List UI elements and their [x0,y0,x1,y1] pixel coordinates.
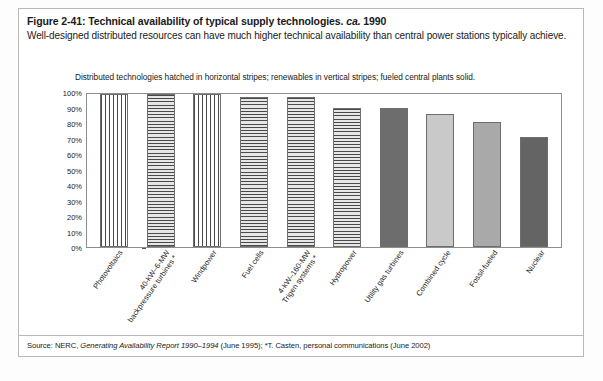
bar-slot [470,94,504,247]
y-axis-tick-label: 30% [67,197,82,206]
bar-slot [330,94,364,247]
y-axis-tick-label: 20% [67,213,82,222]
x-axis-label: Windpower [190,249,219,285]
x-axis-labels: Photovoltaics40-kW–6-MWbackpressure turb… [86,249,562,329]
bar[interactable] [380,108,408,248]
figure-title: Figure 2-41: Technical availability of t… [27,15,575,27]
chart-legend-note: Distributed technologies hatched in hori… [75,72,575,82]
source-prefix: Source: NERC, [27,341,80,350]
source-box: Source: NERC, Generating Availability Re… [18,335,584,357]
bar[interactable] [426,114,454,247]
x-axis-label: Hydropower [329,249,360,287]
bar[interactable] [100,94,128,247]
y-axis-tick-label: 0% [71,244,82,253]
x-axis-label: 4-kW–160-MWTrigen systems * [273,249,319,305]
bar-slot [423,94,457,247]
plot-area [86,93,562,248]
figure-title-ca: ca. [346,15,360,27]
x-axis-label-line: Fuel cells [240,249,265,280]
x-axis-label-line: Hydropower [329,249,360,287]
y-axis-tick-label: 90% [67,104,82,113]
source-text: Source: NERC, Generating Availability Re… [27,341,575,350]
x-axis-label-line: 40-kW–6-MW [119,249,172,319]
source-title: Generating Availability Report 1990–1994 [80,341,218,350]
x-axis-label: Fuel cells [240,249,265,280]
x-axis-label: 40-kW–6-MWbackpressure turbines * [119,249,179,324]
bar[interactable] [333,108,361,248]
x-axis-label-line: Combined cycle [415,249,453,298]
bar-series [87,94,561,247]
figure-subtitle: Well-designed distributed resources can … [27,30,575,43]
x-axis-label: Photovoltaics [92,249,125,291]
x-axis-label: Nuclear [525,249,547,275]
x-axis-label: Fossil-fueled [468,249,500,289]
bar-slot [517,94,551,247]
figure-title-main: Figure 2-41: Technical availability of t… [27,15,343,27]
bar-slot [284,94,318,247]
bar[interactable] [193,94,221,247]
y-axis-tick-label: 80% [67,120,82,129]
bar[interactable] [287,97,315,247]
bar-slot [237,94,271,247]
x-axis-label: Combined cycle [415,249,453,298]
bar-slot [144,94,178,247]
bar-slot [97,94,131,247]
y-axis-tick-label: 100% [63,89,82,98]
figure-page: Figure 2-41: Technical availability of t… [0,0,603,381]
x-axis-label: Utility gas turbines [364,249,407,305]
y-axis-tick-label: 60% [67,151,82,160]
bar[interactable] [473,122,501,247]
y-axis-tick-label: 10% [67,228,82,237]
figure-title-year: 1990 [363,15,386,27]
source-suffix: (June 1995); *T. Casten, personal commun… [219,341,431,350]
figure-caption-box: Figure 2-41: Technical availability of t… [18,8,584,60]
bar-slot [377,94,411,247]
y-axis: 0%10%20%30%40%50%60%70%80%90%100% [60,93,86,248]
bar[interactable] [520,137,548,247]
y-axis-tick-label: 70% [67,135,82,144]
x-axis-label-line: Utility gas turbines [364,249,407,305]
bar-slot [190,94,224,247]
x-axis-label-line: Windpower [190,249,219,285]
bar[interactable] [147,94,175,247]
y-axis-tick-label: 50% [67,166,82,175]
x-axis-label-line: Fossil-fueled [468,249,500,289]
x-axis-label-line: Photovoltaics [92,249,125,291]
bar[interactable] [240,97,268,247]
x-axis-label-line: Nuclear [525,249,547,275]
y-axis-tick-label: 40% [67,182,82,191]
